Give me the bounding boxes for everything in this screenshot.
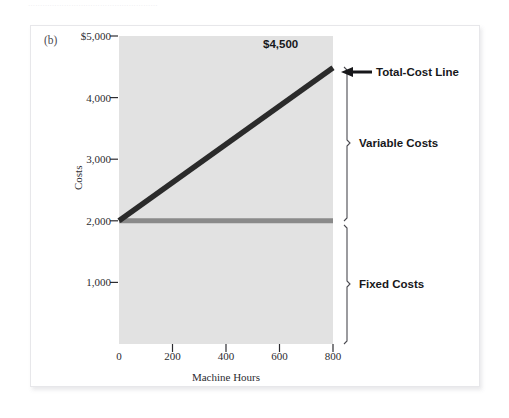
bracket-variable-costs	[344, 67, 350, 221]
variable-costs-bracket-label: Variable Costs	[359, 137, 438, 149]
y-axis-ticks	[110, 36, 118, 282]
total-cost-line-callout-label: Total-Cost Line	[376, 66, 459, 78]
figure-card: (b)	[30, 25, 480, 387]
x-axis-title: Machine Hours	[119, 371, 333, 383]
x-axis-tick-labels: 0 200 400 600 800	[31, 350, 481, 366]
x-tick-label-200: 200	[143, 350, 203, 362]
x-tick-label-600: 600	[250, 350, 310, 362]
y-axis-title: Costs	[72, 166, 84, 190]
bracket-fixed-costs	[344, 225, 350, 344]
x-tick-label-0: 0	[89, 350, 149, 362]
y-tick-label-4000: 4,000	[51, 92, 111, 104]
series-line-total-cost	[119, 68, 333, 221]
y-tick-label-2000: 2,000	[51, 215, 111, 227]
y-axis-tick-labels: $5,000 4,000 3,000 2,000 1,000	[39, 26, 111, 388]
y-tick-label-1000: 1,000	[51, 276, 111, 288]
total-cost-endpoint-value-label: $4,500	[263, 38, 298, 50]
fixed-costs-bracket-label: Fixed Costs	[359, 278, 424, 290]
page-top-text-sliver: ………………………………………………	[28, 0, 480, 9]
x-tick-label-400: 400	[196, 350, 256, 362]
y-tick-label-3000: 3,000	[51, 153, 111, 165]
y-tick-label-5000: $5,000	[51, 30, 111, 42]
x-tick-label-800: 800	[303, 350, 363, 362]
